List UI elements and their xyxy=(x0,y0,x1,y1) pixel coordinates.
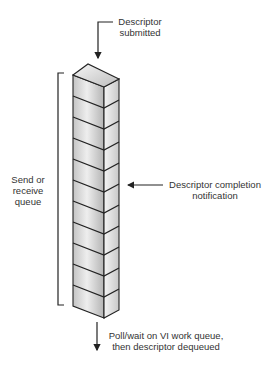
label-line: Descriptor xyxy=(114,16,166,27)
descriptor-submitted-label: Descriptor submitted xyxy=(114,16,166,38)
submit-arrow xyxy=(98,22,113,58)
label-line: submitted xyxy=(114,27,166,38)
label-line: Descriptor completion xyxy=(163,179,267,190)
queue-side-face xyxy=(104,79,119,318)
queue-bracket xyxy=(58,73,64,305)
label-line: Send or xyxy=(4,174,52,185)
label-line: then descriptor dequeued xyxy=(100,341,232,352)
queue-diagram: Descriptor submitted Send or receive que… xyxy=(0,0,272,378)
label-line: receive xyxy=(4,185,52,196)
queue-column xyxy=(73,64,119,318)
send-receive-queue-label: Send or receive queue xyxy=(4,174,52,207)
poll-dequeue-label: Poll/wait on VI work queue, then descrip… xyxy=(100,330,232,352)
queue-front-face xyxy=(73,75,104,318)
label-line: notification xyxy=(163,190,267,201)
completion-notification-label: Descriptor completion notification xyxy=(163,179,267,201)
label-line: queue xyxy=(4,196,52,207)
label-line: Poll/wait on VI work queue, xyxy=(100,330,232,341)
